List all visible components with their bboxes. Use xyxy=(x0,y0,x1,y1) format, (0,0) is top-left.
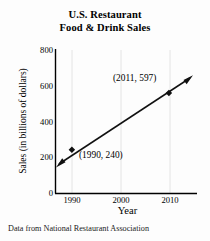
ytick-label-0: 0 xyxy=(27,188,53,198)
trend-line-arrowhead-end xyxy=(184,75,194,84)
ytick-label-800: 800 xyxy=(27,45,53,55)
annotation-2011-597: (2011, 597) xyxy=(113,73,156,83)
xtick-label-2010: 2010 xyxy=(150,195,190,205)
ytick-label-400: 400 xyxy=(27,117,53,127)
chart-figure: U.S. Restaurant Food & Drink Sales 800 6… xyxy=(0,0,210,241)
xtick-label-2000: 2000 xyxy=(101,195,141,205)
xtick-label-1990: 1990 xyxy=(52,195,92,205)
ytick-label-600: 600 xyxy=(27,81,53,91)
ytick-label-200: 200 xyxy=(27,152,53,162)
trend-line-arrowhead-start xyxy=(56,158,66,167)
annotation-1990-240: (1990, 240) xyxy=(79,150,123,160)
source-note: Data from National Restaurant Associatio… xyxy=(8,224,149,233)
x-axis-label: Year xyxy=(55,205,200,216)
data-point-1990 xyxy=(69,146,76,153)
y-axis-label: Sales (in billions of dollars) xyxy=(18,46,28,196)
